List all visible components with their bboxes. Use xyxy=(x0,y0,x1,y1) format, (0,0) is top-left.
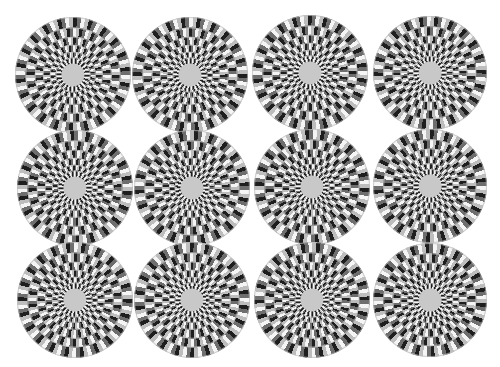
illusion-disc xyxy=(373,243,487,357)
illusion-disc xyxy=(17,242,133,358)
illusion-disc xyxy=(252,15,368,131)
illusion-disc xyxy=(132,17,248,133)
illusion-disc xyxy=(254,129,370,245)
illusion-disc xyxy=(373,129,487,243)
illusion-disc xyxy=(254,242,370,358)
disc-center xyxy=(419,289,442,312)
disc-center xyxy=(419,62,442,85)
illusion-disc xyxy=(373,16,487,130)
disc-center xyxy=(419,175,442,198)
illusion-disc xyxy=(134,130,250,246)
illusion-disc xyxy=(17,130,133,246)
illusion-disc xyxy=(134,242,250,358)
illusion-disc xyxy=(15,17,131,133)
